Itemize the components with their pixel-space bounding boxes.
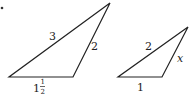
right-hypotenuse-label: 2	[145, 40, 152, 53]
right-base-label: 1	[137, 81, 144, 94]
right-triangle: 2 x 1	[118, 27, 188, 94]
bullet-dot	[1, 7, 4, 10]
left-base-fraction-denominator: 2	[41, 88, 45, 96]
right-side-label: x	[177, 52, 184, 65]
similar-triangles-figure: 3 2 1 1 2 2 x 1	[0, 0, 193, 98]
left-side-label: 2	[91, 40, 98, 53]
left-triangle: 3 2 1 1 2	[9, 3, 110, 96]
left-base-whole-label: 1	[33, 82, 40, 95]
left-base-fraction-numerator: 1	[41, 78, 45, 86]
left-hypotenuse-label: 3	[49, 30, 56, 43]
